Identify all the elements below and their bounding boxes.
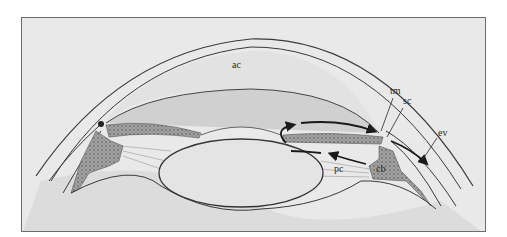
schwalbe-line-mark (98, 121, 104, 127)
label-trabecular-meshwork: tm (390, 86, 401, 96)
eye-anatomy-diagram (21, 17, 486, 232)
ciliary-body-right (369, 146, 431, 206)
label-ciliary-body: cb (376, 164, 385, 174)
figure-frame (21, 17, 486, 232)
label-schlemm-canal: sc (403, 96, 411, 106)
label-posterior-chamber: pc (334, 164, 343, 174)
label-episcleral-veins: ev (438, 128, 447, 138)
label-anterior-chamber: ac (232, 60, 241, 70)
lens (159, 139, 323, 207)
iris-right (283, 133, 383, 144)
